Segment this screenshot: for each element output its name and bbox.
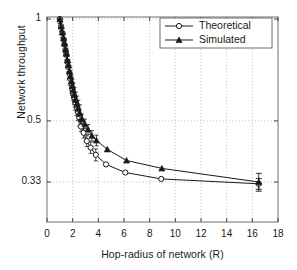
x-tick-label: 14	[216, 228, 238, 239]
x-tick-label: 18	[267, 228, 289, 239]
x-tick-label: 4	[87, 228, 109, 239]
y-tick-label: 0.33	[9, 175, 41, 186]
y-tick-label: 1	[9, 12, 41, 23]
x-tick-label: 16	[241, 228, 263, 239]
x-axis-label: Hop-radius of network (R)	[47, 248, 278, 260]
x-tick-label: 12	[190, 228, 212, 239]
x-tick-label: 0	[36, 228, 58, 239]
x-tick-label: 10	[164, 228, 186, 239]
figure: Network throughput Hop-radius of network…	[0, 0, 297, 270]
x-tick-label: 8	[139, 228, 161, 239]
x-tick-label: 6	[113, 228, 135, 239]
y-tick-label: 0.5	[9, 114, 41, 125]
legend-label: Simulated	[199, 33, 246, 45]
legend-label: Theoretical	[199, 19, 251, 31]
x-tick-label: 2	[62, 228, 84, 239]
